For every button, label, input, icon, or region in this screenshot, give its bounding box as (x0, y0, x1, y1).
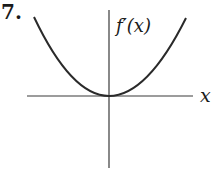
graph (0, 0, 216, 171)
parabola-curve (34, 17, 186, 96)
